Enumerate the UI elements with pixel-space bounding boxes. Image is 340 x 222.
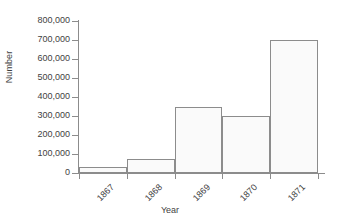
bar — [270, 40, 318, 173]
y-axis-tick — [72, 173, 79, 174]
y-axis-tick-label: 300,000 — [12, 111, 70, 120]
x-axis-tick — [175, 174, 176, 179]
x-axis-title: Year — [0, 205, 340, 215]
y-axis-tick-label: 500,000 — [12, 73, 70, 82]
y-axis-tick — [72, 116, 79, 117]
y-axis-tick — [72, 135, 79, 136]
y-axis-tick-label: 0 — [12, 168, 70, 177]
x-axis-tick — [79, 174, 80, 179]
y-axis-tick-label: 800,000 — [12, 16, 70, 25]
y-axis-tick-label: 100,000 — [12, 149, 70, 158]
bar-chart: Number 0100,000200,000300,000400,000500,… — [0, 0, 340, 222]
bar — [222, 116, 270, 173]
y-axis-tick-label: 400,000 — [12, 92, 70, 101]
x-axis-line — [78, 173, 325, 174]
bar — [127, 159, 175, 173]
x-axis-tick — [127, 174, 128, 179]
plot-area — [79, 21, 318, 173]
x-axis-tick — [270, 174, 271, 179]
x-axis-tick-label: 1870 — [238, 182, 259, 203]
x-axis-tick-label: 1871 — [286, 182, 307, 203]
x-axis-tick — [222, 174, 223, 179]
y-axis-tick-label: 600,000 — [12, 54, 70, 63]
y-axis-tick-label: 700,000 — [12, 35, 70, 44]
x-axis-tick-label: 1868 — [143, 182, 164, 203]
x-axis-tick-label: 1869 — [190, 182, 211, 203]
bar — [79, 167, 127, 173]
y-axis-tick — [72, 154, 79, 155]
y-axis-tick — [72, 78, 79, 79]
x-axis-tick — [318, 174, 319, 179]
y-axis-tick-labels: 0100,000200,000300,000400,000500,000600,… — [8, 0, 70, 222]
bar — [175, 107, 223, 174]
y-axis-tick — [72, 59, 79, 60]
y-axis-tick — [72, 97, 79, 98]
y-axis-tick-label: 200,000 — [12, 130, 70, 139]
y-axis-tick — [72, 40, 79, 41]
x-axis-tick-label: 1867 — [95, 182, 116, 203]
y-axis-tick — [72, 21, 79, 22]
